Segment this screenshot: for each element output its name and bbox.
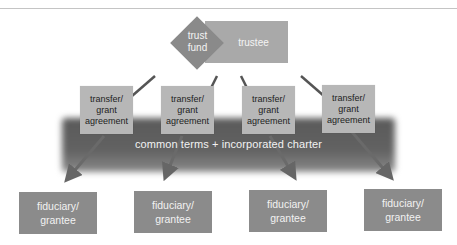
agreement-box-4: transfer/ grant agreement — [322, 85, 375, 133]
connector-line-4 — [301, 76, 324, 96]
agreement-box-1: transfer/ grant agreement — [80, 86, 133, 134]
agreement-box-2: transfer/ grant agreement — [161, 86, 214, 134]
grantee-box-2: fiduciary/ grantee — [134, 191, 212, 233]
band-label: common terms + incorporated charter — [62, 138, 395, 150]
trust-fund-label: trust fund — [171, 30, 224, 54]
trustee-label: trustee — [238, 37, 269, 48]
grantee-box-1: fiduciary/ grantee — [19, 192, 97, 234]
connector-line-1 — [132, 76, 155, 96]
grantee-box-4: fiduciary/ grantee — [364, 189, 442, 231]
agreement-box-3: transfer/ grant agreement — [242, 86, 295, 134]
grantee-box-3: fiduciary/ grantee — [249, 190, 327, 232]
